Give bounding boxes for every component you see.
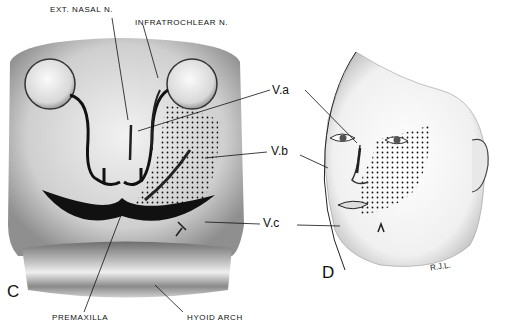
premaxilla-label: PREMAXILLA: [52, 313, 108, 322]
right-eye-shape: [167, 59, 217, 109]
va-label: V.a: [272, 83, 289, 97]
hyoid-arch-shape: [22, 242, 232, 298]
panel-c-label: C: [7, 282, 19, 302]
vb-label: V.b: [271, 144, 288, 158]
adult-face: [297, 52, 488, 270]
infratrochlear-nerve-label: INFRATROCHLEAR N.: [135, 18, 228, 27]
ext-nasal-nerve-label: EXT. NASAL N.: [50, 5, 113, 14]
vc-label: V.c: [263, 216, 279, 230]
hyoid-arch-label: HYOID ARCH: [187, 313, 243, 322]
left-eye-shape: [25, 59, 75, 109]
panel-d-label: D: [322, 263, 334, 283]
anatomical-illustration: [0, 0, 509, 326]
embryo-face: [8, 18, 270, 312]
